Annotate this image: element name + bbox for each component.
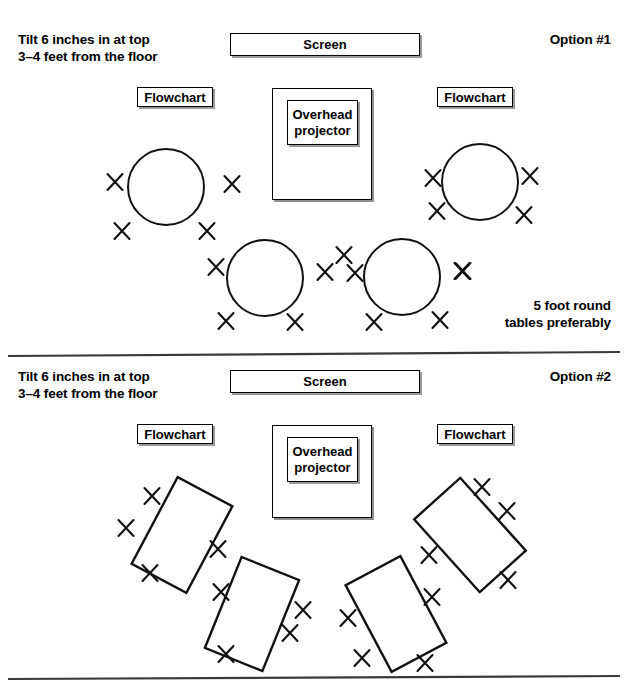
projector-label-line2: projector [294,123,350,138]
rectangular-table [205,557,299,671]
projector-label-option-1: Overhead projector [287,100,358,145]
seat-marker [433,312,448,328]
round-table [442,144,518,220]
footnote-line2: tables preferably [505,314,611,331]
tilt-note-line2: 3–4 feet from the floor [18,385,157,402]
seat-marker [211,541,226,557]
seat-marker [430,203,445,219]
option-1-label: Option #1 [550,31,611,48]
seat-marker [517,207,532,223]
divider-middle [8,352,620,356]
seat-marker [475,479,490,495]
seat-marker [500,503,515,519]
round-table [364,239,440,315]
tilt-note-line1: Tilt 6 inches in at top [18,31,157,48]
seat-marker [523,168,538,184]
flowchart-box-right-option-1: Flowchart [437,87,513,107]
footnote-option-1: 5 foot round tables preferably [505,297,611,331]
seat-marker [418,655,433,671]
seat-marker [337,247,352,263]
seat-marker [296,602,311,618]
projector-label-line2: projector [294,460,350,475]
screen-box-option-2: Screen [230,370,420,393]
seat-marker [501,572,516,588]
seat-marker [455,263,470,279]
projector-label-line1: Overhead [293,107,353,122]
flowchart-box-left-option-2: Flowchart [137,424,213,444]
seat-marker [288,314,303,330]
divider-bottom [8,676,620,679]
seat-marker [225,176,240,192]
seat-marker [426,170,441,186]
seat-marker [367,314,382,330]
seat-marker [115,223,130,239]
footnote-line1: 5 foot round [505,297,611,314]
round-table [227,240,303,316]
tilt-note-option-1: Tilt 6 inches in at top 3–4 feet from th… [18,31,157,65]
flowchart-box-right-option-2: Flowchart [437,424,513,444]
seat-marker [422,547,437,563]
seat-marker [283,625,298,641]
rectangular-table [414,478,526,592]
seat-marker [209,259,224,275]
seat-marker [200,223,215,239]
screen-box-option-1: Screen [230,33,420,56]
flowchart-box-left-option-1: Flowchart [137,87,213,107]
round-table [128,149,204,225]
room-setup-diagram-page: Tilt 6 inches in at top 3–4 feet from th… [0,0,627,695]
tilt-note-line1: Tilt 6 inches in at top [18,368,157,385]
seat-marker [119,520,134,536]
tilt-note-line2: 3–4 feet from the floor [18,48,157,65]
projector-label-line1: Overhead [293,444,353,459]
seat-marker [145,488,160,504]
option-2-label: Option #2 [550,368,611,385]
projector-label-option-2: Overhead projector [287,437,358,482]
tilt-note-option-2: Tilt 6 inches in at top 3–4 feet from th… [18,368,157,402]
seat-marker [219,313,234,329]
rectangular-table [346,556,447,672]
seat-marker [348,265,363,281]
seat-marker [425,589,440,605]
seat-marker [108,174,123,190]
seat-marker [341,610,356,626]
seat-marker [318,264,333,280]
seat-marker [355,650,370,666]
